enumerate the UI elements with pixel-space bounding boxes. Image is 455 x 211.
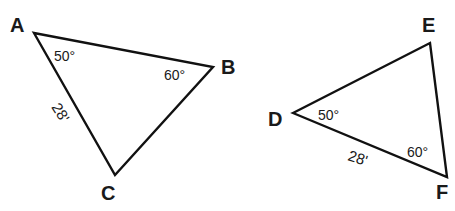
side-label-ac: 28'	[48, 100, 73, 126]
diagram-canvas: A B C 50° 60° 28' E D F 50° 60° 28'	[0, 0, 455, 211]
triangle-abc: A B C 50° 60° 28'	[10, 14, 235, 204]
vertex-label-e: E	[422, 14, 435, 36]
vertex-label-b: B	[221, 56, 235, 78]
vertex-label-f: F	[436, 181, 448, 203]
side-label-df: 28'	[346, 147, 370, 169]
vertex-label-d: D	[268, 108, 282, 130]
vertex-label-c: C	[101, 182, 115, 204]
vertex-label-a: A	[10, 14, 24, 36]
angle-label-a: 50°	[54, 48, 75, 64]
angle-label-f: 60°	[407, 144, 428, 160]
triangle-def: E D F 50° 60° 28'	[268, 14, 448, 203]
angle-label-d: 50°	[318, 107, 339, 123]
angle-label-b: 60°	[164, 67, 185, 83]
